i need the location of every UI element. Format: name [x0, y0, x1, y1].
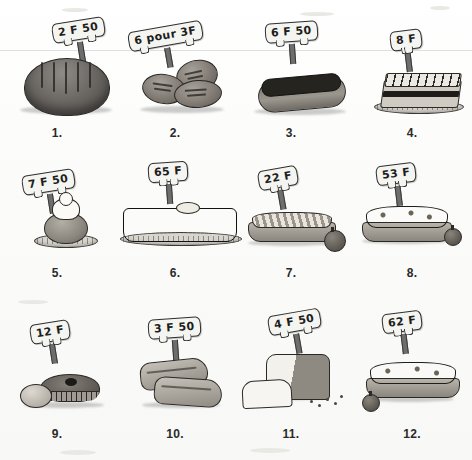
- price-label: 8 F: [395, 32, 417, 47]
- price-sign-12: 62 F: [381, 310, 423, 335]
- price-label: 6 F 50: [271, 24, 312, 40]
- price-label: 65 F: [154, 164, 183, 179]
- price-sign-10: 3 F 50: [147, 316, 201, 340]
- price-sign-6: 65 F: [147, 161, 189, 184]
- price-label: 62 F: [387, 313, 417, 329]
- price-label: 22 F: [263, 169, 293, 187]
- item-number-1: 1.: [37, 126, 77, 140]
- round-cake-icon: [118, 198, 242, 254]
- price-sign-1: 2 F 50: [51, 16, 106, 44]
- choux-cream-icon: [28, 196, 108, 256]
- item-number-6: 6.: [155, 266, 195, 280]
- item-number-2: 2.: [155, 126, 195, 140]
- price-sign-8: 53 F: [375, 162, 417, 187]
- sign-board: 2 F 50: [51, 16, 106, 44]
- eclair-icon: [252, 72, 352, 118]
- bread-rolls-icon: [138, 60, 228, 118]
- price-sign-3: 6 F 50: [264, 20, 318, 44]
- sign-board: 62 F: [381, 310, 423, 335]
- price-label: 2 F 50: [57, 20, 99, 39]
- sign-board: 65 F: [147, 161, 189, 184]
- price-sign-4: 8 F: [389, 28, 423, 52]
- sign-post: [405, 52, 413, 73]
- sign-board: 6 F 50: [264, 20, 318, 44]
- sign-board: 12 F: [29, 319, 72, 345]
- berry-tart-icon: [358, 198, 468, 254]
- sign-board: 22 F: [257, 165, 300, 192]
- sign-post: [49, 343, 58, 364]
- price-label: 7 F 50: [27, 172, 69, 191]
- price-label: 12 F: [35, 323, 65, 340]
- price-label: 3 F 50: [154, 320, 195, 336]
- bread-slices-icon: [136, 358, 236, 414]
- item-number-8: 8.: [392, 266, 432, 280]
- item-number-11: 11.: [271, 427, 311, 441]
- millefeuille-icon: [370, 72, 466, 120]
- illustration-page: 2 F 50 1. 6 pour 3F: [0, 0, 472, 460]
- sign-board: 3 F 50: [147, 316, 201, 340]
- sign-board: 8 F: [389, 28, 423, 52]
- price-sign-7: 22 F: [257, 165, 300, 192]
- small-pie-icon: [18, 368, 114, 416]
- price-sign-11: 4 F 50: [267, 308, 322, 337]
- item-grid: 2 F 50 1. 6 pour 3F: [0, 0, 472, 460]
- item-number-7: 7.: [271, 266, 311, 280]
- price-label: 4 F 50: [273, 312, 315, 332]
- item-number-4: 4.: [392, 126, 432, 140]
- item-number-5: 5.: [37, 266, 77, 280]
- price-label: 6 pour 3F: [133, 24, 197, 48]
- apple-tart-icon: [244, 204, 354, 256]
- price-label: 53 F: [381, 165, 411, 181]
- item-number-12: 12.: [392, 427, 432, 441]
- plum-tart-icon: [360, 352, 468, 412]
- pain-de-mie-icon: [240, 350, 356, 412]
- item-number-3: 3.: [271, 126, 311, 140]
- round-loaf-icon: [16, 56, 116, 118]
- price-sign-9: 12 F: [29, 319, 72, 345]
- item-number-10: 10.: [155, 427, 195, 441]
- item-number-9: 9.: [37, 427, 77, 441]
- sign-board: 53 F: [375, 162, 417, 187]
- price-sign-2: 6 pour 3F: [127, 20, 204, 53]
- sign-board: 4 F 50: [267, 308, 322, 337]
- sign-post: [289, 44, 296, 64]
